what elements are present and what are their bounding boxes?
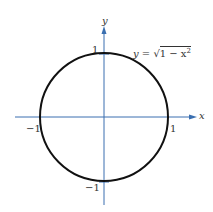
y-axis-arrow-icon (102, 26, 107, 34)
equation-radicand: 1 − x2 (160, 46, 191, 59)
equation-annotation: y = √1 − x2 (133, 48, 191, 59)
equation-lhs: y = (133, 48, 153, 59)
y-tick-label-pos: 1 (92, 45, 98, 55)
x-tick-label-pos: 1 (170, 124, 176, 134)
x-tick-label-neg: −1 (26, 124, 41, 134)
x-axis-label: x (199, 111, 205, 121)
unit-circle-figure: y x 1 −1 −1 1 y = √1 − x2 (0, 0, 213, 212)
plot-canvas (0, 0, 213, 212)
y-tick-label-neg: −1 (85, 183, 100, 193)
y-axis-label: y (102, 16, 108, 26)
x-axis-arrow-icon (189, 115, 197, 120)
